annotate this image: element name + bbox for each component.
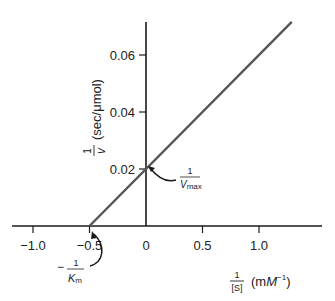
x-tick-label: 1.0 (250, 238, 268, 253)
x-ticks: −1.0−0.500.51.0 (20, 226, 268, 253)
x-label-denominator: [S] (231, 283, 242, 293)
y-label-numerator: 1 (82, 148, 93, 154)
y-label-denominator: v (94, 147, 108, 154)
x-tick-label: 0 (142, 238, 149, 253)
x-label-numerator: 1 (234, 270, 239, 280)
y-ticks: 0.020.040.06 (110, 48, 146, 177)
km-prefix: − (57, 260, 64, 274)
vmax-arrow (150, 168, 176, 181)
x-tick-label: 0.5 (193, 238, 211, 253)
vmax-numerator: 1 (187, 166, 192, 176)
vmax-annotation: 1 Vmax (148, 166, 202, 191)
km-numerator: 1 (73, 258, 78, 268)
km-denominator: Km (68, 272, 82, 285)
km-arrowhead (91, 231, 97, 239)
y-tick-label: 0.06 (110, 48, 135, 63)
y-tick-label: 0.02 (110, 162, 135, 177)
x-label-unit: (mM−1) (251, 273, 290, 289)
vmax-denominator: Vmax (180, 179, 202, 191)
x-tick-label: −1.0 (20, 238, 46, 253)
lineweaver-burk-chart: −1.0−0.500.51.0 0.020.040.06 1 v (sec/μm… (0, 0, 335, 301)
x-axis-label: 1 [S] (mM−1) (230, 270, 290, 293)
y-tick-label: 0.04 (110, 105, 135, 120)
vmax-arrowhead (148, 166, 155, 172)
y-label-unit: (sec/μmol) (89, 79, 104, 140)
y-axis-label: 1 v (sec/μmol) (82, 79, 108, 156)
